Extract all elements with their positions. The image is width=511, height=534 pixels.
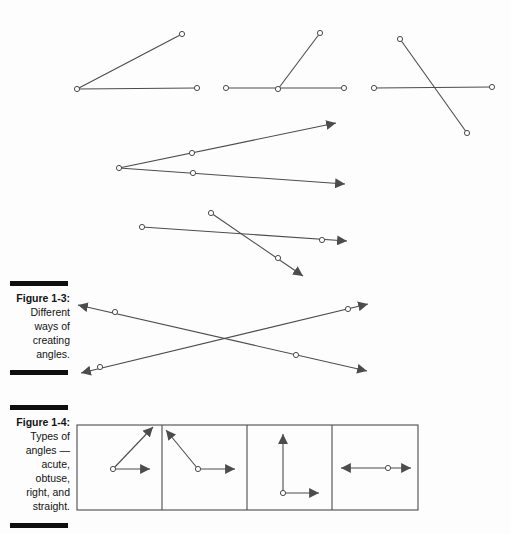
figure-1-3-label: Figure 1-3: — [0, 291, 70, 305]
endpoint-dot — [489, 84, 494, 89]
endpoint-dot — [293, 352, 298, 357]
fig3-angle1-base-segment — [77, 88, 197, 89]
figure-1-3-caption-line-2: ways of — [0, 319, 70, 333]
endpoint-dot — [397, 36, 402, 41]
endpoint-dot — [190, 170, 195, 175]
endpoint-dot — [280, 490, 285, 495]
figure-1-3-caption-line-4: angles. — [0, 347, 70, 361]
endpoint-dot — [223, 85, 228, 90]
fig3-angle2-slanted-segment — [278, 33, 320, 89]
endpoint-dot — [345, 306, 350, 311]
figure-1-4-caption-line-3: acute, — [0, 457, 70, 471]
figure-1-4-rule-top — [10, 405, 68, 410]
endpoint-dot — [139, 224, 144, 229]
endpoint-dot — [112, 309, 117, 314]
endpoint-dot — [371, 85, 376, 90]
endpoint-dot — [189, 150, 194, 155]
fig3-angle3-diagonal-segment — [400, 39, 467, 133]
figure-1-4-caption-line-1: Types of — [0, 429, 70, 443]
endpoint-dot — [319, 237, 324, 242]
figure-1-4-caption-line-4: obtuse, — [0, 471, 70, 485]
endpoint-dot — [74, 86, 79, 91]
endpoint-dot — [275, 86, 280, 91]
fig3-angle5-shallow-ray — [142, 227, 347, 241]
fig3-angle6-crossing-line-2 — [81, 304, 368, 373]
fig3-angle5-steep-ray — [211, 213, 303, 276]
figure-1-4-caption-line-5: right, and — [0, 485, 70, 499]
endpoint-dot — [110, 466, 115, 471]
endpoint-dot — [317, 30, 322, 35]
figure-1-4-rule-bottom — [10, 523, 68, 528]
figure-1-3-caption: Figure 1-3: Different ways of creating a… — [0, 291, 70, 361]
figure-1-3-caption-line-1: Different — [0, 305, 70, 319]
fig4-obtuse-diagonal-ray — [166, 430, 198, 469]
fig3-angle4-upper-ray — [119, 123, 336, 168]
endpoint-dot — [194, 85, 199, 90]
endpoint-dot — [97, 364, 102, 369]
fig3-angle1-slanted-segment — [77, 34, 182, 89]
endpoint-dot — [275, 255, 280, 260]
endpoint-dot — [116, 165, 121, 170]
endpoint-dot — [464, 130, 469, 135]
book-page: Figure 1-3: Different ways of creating a… — [0, 0, 511, 534]
figure-1-4-caption-line-2: angles — — [0, 443, 70, 457]
fig3-angle3-horizontal-segment — [374, 87, 492, 88]
angle-diagrams-drawing — [0, 0, 511, 534]
fig3-angle4-lower-ray — [119, 168, 345, 184]
figure-1-3-rule-top — [10, 281, 68, 286]
figure-1-3-rule-bottom — [10, 370, 68, 375]
figure-1-4-caption: Figure 1-4: Types of angles — acute, obt… — [0, 415, 70, 513]
figure-1-4-label: Figure 1-4: — [0, 415, 70, 429]
fig4-acute-diagonal-ray — [113, 427, 153, 469]
endpoint-dot — [195, 466, 200, 471]
endpoint-dot — [341, 85, 346, 90]
endpoint-dot — [385, 465, 390, 470]
endpoint-dot — [179, 31, 184, 36]
figure-1-3-caption-line-3: creating — [0, 333, 70, 347]
endpoint-dot — [208, 210, 213, 215]
figure-1-4-caption-line-6: straight. — [0, 499, 70, 513]
